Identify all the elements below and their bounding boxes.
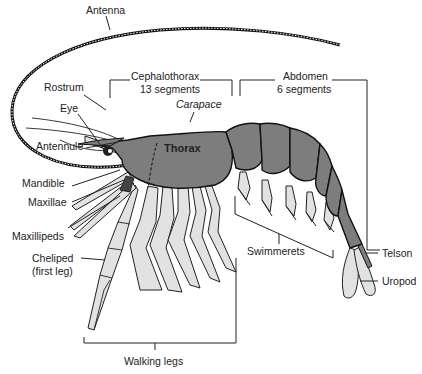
- label-antenna: Antenna: [86, 4, 125, 16]
- label-cephalothorax: Cephalothorax: [131, 70, 200, 82]
- label-maxillipeds: Maxillipeds: [12, 230, 64, 242]
- label-cephalothorax-segments: 13 segments: [140, 83, 200, 95]
- label-cheliped: Cheliped: [32, 252, 74, 264]
- label-maxillae: Maxillae: [28, 196, 67, 208]
- label-cheliped-note: (first leg): [32, 265, 73, 277]
- label-antennule: Antennule: [36, 140, 83, 152]
- label-eye: Eye: [60, 102, 78, 114]
- label-thorax: Thorax: [164, 142, 202, 154]
- label-telson: Telson: [382, 247, 413, 259]
- label-walking-legs: Walking legs: [124, 355, 183, 367]
- shrimp-anatomy-diagram: Antenna Cephalothorax 13 segments Abdome…: [0, 0, 422, 374]
- label-abdomen-segments: 6 segments: [277, 83, 331, 95]
- label-carapace: Carapace: [176, 98, 222, 110]
- label-rostrum: Rostrum: [44, 81, 84, 93]
- label-abdomen: Abdomen: [283, 70, 328, 82]
- label-swimmerets: Swimmerets: [247, 245, 305, 257]
- cephalothorax: [78, 131, 232, 188]
- diagram-canvas: Antenna Cephalothorax 13 segments Abdome…: [0, 0, 422, 374]
- tail-fan: [342, 244, 375, 298]
- label-uropod: Uropod: [382, 275, 417, 287]
- label-mandible: Mandible: [22, 177, 65, 189]
